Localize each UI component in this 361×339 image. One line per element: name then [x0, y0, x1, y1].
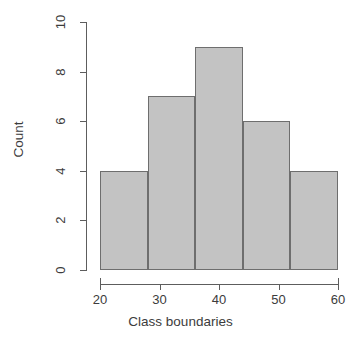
y-axis-tick-label-text: 4 — [54, 160, 68, 182]
x-axis-tick-label: 50 — [264, 292, 294, 308]
y-axis-tick-label-text: 10 — [54, 11, 68, 33]
histogram-bar — [100, 171, 148, 270]
y-axis-tick-label-text: 6 — [54, 110, 68, 132]
y-axis-tick-label: 8 — [50, 65, 72, 79]
y-axis-tick — [80, 72, 86, 73]
x-axis-tick — [160, 284, 161, 290]
x-axis-end-cap — [100, 278, 101, 285]
x-axis-title: Class boundaries — [0, 314, 361, 329]
y-axis-tick — [80, 121, 86, 122]
x-axis-tick-label: 30 — [145, 292, 175, 308]
y-axis-tick-label-text: 0 — [54, 259, 68, 281]
y-axis-tick-label: 0 — [50, 263, 72, 277]
histogram-bar — [195, 47, 243, 270]
y-axis-tick — [80, 171, 86, 172]
y-axis-line — [86, 22, 87, 270]
y-axis-title: Count — [11, 110, 26, 170]
y-axis-tick-label-text: 2 — [54, 209, 68, 231]
x-axis-tick-label: 60 — [323, 292, 353, 308]
histogram-bar — [243, 121, 291, 270]
histogram-chart: 0246810 Count 2030405060 Class boundarie… — [0, 0, 361, 339]
x-axis-end-cap — [338, 278, 339, 285]
y-axis-end-cap — [80, 270, 87, 271]
x-axis-tick — [279, 284, 280, 290]
x-axis-tick-label: 40 — [204, 292, 234, 308]
histogram-bar — [148, 96, 196, 270]
x-axis-tick-label: 20 — [85, 292, 115, 308]
y-axis-tick-label: 4 — [50, 164, 72, 178]
plot-area — [100, 22, 338, 270]
x-axis-tick — [219, 284, 220, 290]
y-axis-tick-label: 6 — [50, 114, 72, 128]
y-axis-end-cap — [80, 22, 87, 23]
y-axis-tick-label: 10 — [50, 15, 72, 29]
y-axis-tick — [80, 220, 86, 221]
histogram-bar — [290, 171, 338, 270]
y-axis-tick-label-text: 8 — [54, 61, 68, 83]
y-axis-tick-label: 2 — [50, 213, 72, 227]
